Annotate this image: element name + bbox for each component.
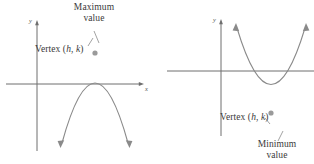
- parabola-curve-down: [62, 83, 128, 143]
- vertex-label-prefix: Vertex (: [220, 112, 251, 122]
- maximum-value-line-1: Maximum: [55, 2, 133, 13]
- vertex-dot: [92, 50, 97, 55]
- parabola-curve-up: [237, 28, 305, 85]
- parabola-right-arrowhead: [303, 23, 310, 31]
- maximum-value-line-2: value: [55, 13, 133, 24]
- panel-maximum-parabola: y x Maximum value Vertex (h, k): [0, 0, 157, 164]
- x-axis-label: x: [145, 85, 148, 92]
- minimum-value-callout: Minimum value: [240, 139, 314, 161]
- minimum-value-line-1: Minimum: [240, 139, 314, 150]
- y-axis-arrowhead: [35, 20, 39, 25]
- y-axis-arrowhead: [219, 19, 223, 24]
- y-axis-label: y: [29, 17, 32, 24]
- vertex-label-prefix: Vertex (: [35, 44, 66, 54]
- vertex-leader-line: [88, 38, 93, 46]
- vertex-dot: [268, 110, 273, 115]
- vertex-label: Vertex (h, k): [220, 112, 269, 123]
- x-axis-arrowhead: [139, 82, 144, 86]
- parabola-left-arrowhead: [233, 23, 240, 31]
- parabola-vertex-figure: y x Maximum value Vertex (h, k): [0, 0, 314, 164]
- parabola-right-arrowhead: [126, 140, 133, 148]
- vertex-label-suffix: ): [80, 44, 83, 54]
- parabola-left-arrowhead: [58, 140, 65, 148]
- maximum-value-callout: Maximum value: [55, 2, 133, 24]
- maximum-value-leader-line: [94, 31, 99, 43]
- vertex-label: Vertex (h, k): [35, 44, 84, 55]
- minimum-value-line-2: value: [240, 150, 314, 161]
- maximum-parabola-graphic: [0, 0, 157, 164]
- panel-minimum-parabola: y Vertex (h, k) Minimum value: [157, 0, 314, 164]
- vertex-label-suffix: ): [265, 112, 268, 122]
- y-axis-label: y: [213, 16, 216, 23]
